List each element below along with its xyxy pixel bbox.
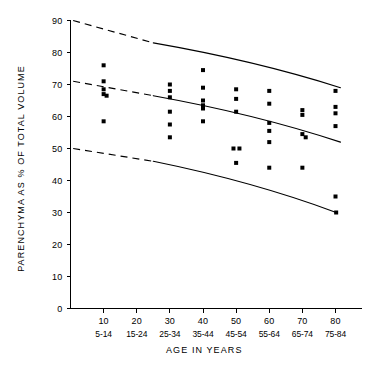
data-point <box>231 147 235 151</box>
data-point <box>168 89 172 93</box>
x-range-label: 65-74 <box>292 329 314 339</box>
data-point <box>267 102 271 106</box>
data-point <box>168 123 172 127</box>
data-point <box>234 97 238 101</box>
data-point <box>334 124 338 128</box>
data-point <box>201 86 205 90</box>
y-tick-label: 60 <box>52 112 62 122</box>
data-point <box>267 140 271 144</box>
y-tick-label: 40 <box>52 176 62 186</box>
mean-line-solid-segment <box>153 96 340 142</box>
x-range-label: 35-44 <box>192 329 214 339</box>
data-point <box>201 119 205 123</box>
data-point <box>300 108 304 112</box>
data-point <box>168 110 172 114</box>
data-point <box>267 89 271 93</box>
data-point <box>267 121 271 125</box>
lower-limit-dashed-segment <box>73 149 153 162</box>
data-point <box>102 63 106 67</box>
data-point <box>334 111 338 115</box>
y-tick-label: 20 <box>52 240 62 250</box>
data-point <box>102 119 106 123</box>
data-point <box>237 147 241 151</box>
data-point <box>334 89 338 93</box>
data-point <box>102 79 106 83</box>
data-point <box>168 135 172 139</box>
data-point <box>300 166 304 170</box>
data-points <box>102 63 339 214</box>
data-point <box>304 135 308 139</box>
data-point <box>168 83 172 87</box>
data-point <box>334 105 338 109</box>
data-point <box>201 107 205 111</box>
x-axis-title: AGE IN YEARS <box>166 345 243 355</box>
mean-line-dashed-segment <box>73 81 153 95</box>
y-tick-label: 80 <box>52 48 62 58</box>
reference-lines <box>73 21 340 213</box>
axis-labels: 0102030405060708090105-142015-243025-344… <box>16 16 346 355</box>
data-point <box>105 94 109 98</box>
x-range-label: 55-64 <box>259 329 281 339</box>
data-point <box>102 87 106 91</box>
x-tick-label: 60 <box>264 316 274 326</box>
data-point <box>201 68 205 72</box>
x-tick-label: 40 <box>198 316 208 326</box>
x-tick-label: 80 <box>330 316 340 326</box>
data-point <box>168 95 172 99</box>
y-tick-label: 90 <box>52 16 62 26</box>
upper-limit-solid-segment <box>153 43 340 88</box>
y-tick-label: 70 <box>52 80 62 90</box>
x-range-label: 15-24 <box>126 329 148 339</box>
data-point <box>334 211 338 215</box>
data-point <box>234 110 238 114</box>
data-point <box>334 195 338 199</box>
x-tick-label: 20 <box>132 316 142 326</box>
y-tick-label: 30 <box>52 208 62 218</box>
x-range-label: 45-54 <box>226 329 248 339</box>
data-point <box>267 166 271 170</box>
upper-limit-dashed-segment <box>73 21 153 43</box>
lower-limit-solid-segment <box>153 161 336 212</box>
x-tick-label: 10 <box>98 316 108 326</box>
x-range-label: 75-84 <box>325 329 347 339</box>
axes <box>67 21 363 313</box>
x-tick-label: 30 <box>165 316 175 326</box>
x-range-label: 25-34 <box>159 329 181 339</box>
x-range-label: 5-14 <box>95 329 112 339</box>
data-point <box>234 87 238 91</box>
data-point <box>201 99 205 103</box>
y-axis-title: PARENCHYMA AS % OF TOTAL VOLUME <box>16 65 26 272</box>
scatter-plot: 0102030405060708090105-142015-243025-344… <box>0 0 372 380</box>
data-point <box>267 129 271 133</box>
data-point <box>234 161 238 165</box>
x-tick-label: 70 <box>297 316 307 326</box>
chart-container: 0102030405060708090105-142015-243025-344… <box>0 0 372 380</box>
y-tick-label: 10 <box>52 272 62 282</box>
x-tick-label: 50 <box>231 316 241 326</box>
data-point <box>300 113 304 117</box>
y-tick-label: 50 <box>52 144 62 154</box>
y-tick-label: 0 <box>57 304 62 314</box>
